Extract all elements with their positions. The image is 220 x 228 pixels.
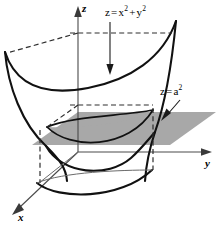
surface-eq-plus: + bbox=[128, 6, 136, 18]
plane-equation-label: z=a2 bbox=[160, 85, 183, 97]
plane-eq-term1-exponent: 2 bbox=[179, 83, 183, 92]
plane-eq-op: = bbox=[165, 85, 173, 97]
x-axis-line bbox=[20, 152, 78, 207]
surface-eq-term2-exponent: 2 bbox=[142, 4, 146, 13]
y-axis-label: y bbox=[205, 157, 210, 169]
dashed-top-rim-back-left bbox=[7, 33, 78, 53]
surface-label-arrowhead bbox=[106, 64, 113, 75]
surface-equation-label: z=x2+y2 bbox=[105, 6, 146, 18]
x-axis-label: x bbox=[18, 211, 24, 223]
surface-eq-op: = bbox=[110, 6, 118, 18]
z-axis-label: z bbox=[82, 2, 86, 14]
figure-canvas bbox=[0, 0, 220, 228]
y-axis-arrowhead bbox=[201, 148, 212, 156]
paraboloid-figure: z=x2+y2 z=a2 z y x bbox=[0, 0, 220, 228]
projected-circle-front bbox=[37, 170, 152, 194]
z-axis-arrowhead bbox=[74, 6, 82, 17]
paraboloid-right-silhouette bbox=[145, 21, 176, 181]
paraboloid-top-rim-front bbox=[5, 21, 176, 91]
